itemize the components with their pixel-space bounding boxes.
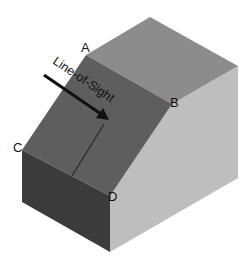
vertex-label-c: C <box>13 140 22 155</box>
vertex-label-b: B <box>170 95 179 110</box>
vertex-label-a: A <box>81 40 90 55</box>
isometric-block-diagram: A B C D Line-of-Sight <box>0 0 249 265</box>
vertex-label-d: D <box>108 189 117 204</box>
